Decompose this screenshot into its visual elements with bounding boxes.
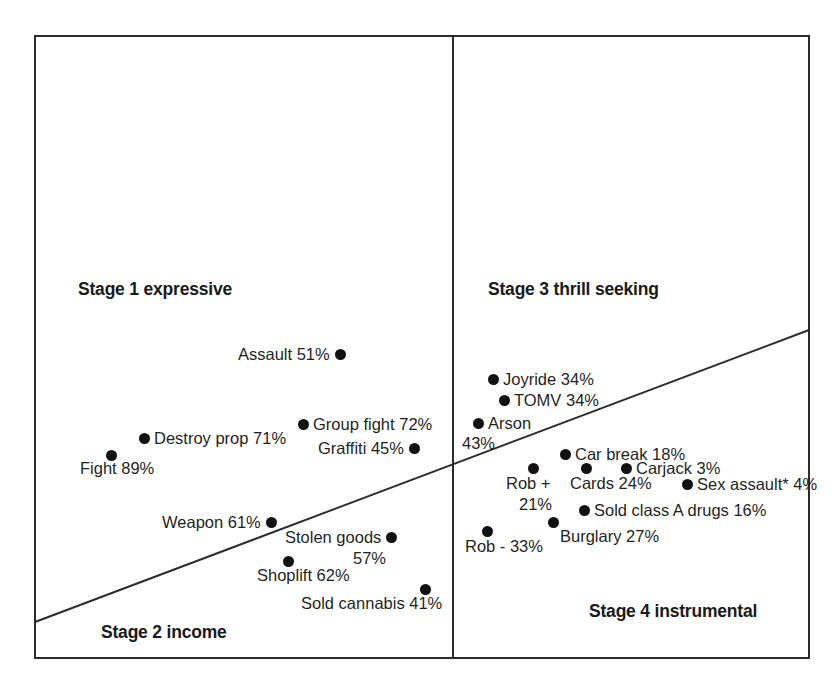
- scatter-dot-icon: [139, 433, 150, 444]
- point-assault[interactable]: Assault 51%: [238, 345, 346, 364]
- scatter-dot-icon: [386, 532, 397, 543]
- scatter-dot-icon: [409, 443, 420, 454]
- point-stolen-goods-value: 57%: [353, 549, 386, 568]
- point-joyride-label: Joyride 34%: [503, 370, 594, 389]
- marker-cards[interactable]: [581, 463, 592, 474]
- scatter-dot-icon: [579, 505, 590, 516]
- stage-4-label: Stage 4 instrumental: [589, 601, 757, 622]
- point-sold-class-a-drugs-label: Sold class A drugs 16%: [594, 501, 766, 520]
- point-arson[interactable]: Arson: [473, 414, 531, 433]
- scatter-dot-icon: [682, 479, 693, 490]
- stage-2-label: Stage 2 income: [101, 622, 227, 643]
- scatter-dot-icon: [298, 419, 309, 430]
- point-destroy-prop[interactable]: Destroy prop 71%: [139, 429, 286, 448]
- scatter-dot-icon: [488, 374, 499, 385]
- scatter-dot-icon: [335, 349, 346, 360]
- point-fight-label: Fight 89%: [80, 459, 154, 478]
- scatter-dot-icon: [499, 395, 510, 406]
- point-burglary-label: Burglary 27%: [560, 527, 659, 546]
- point-rob-minus-label: Rob - 33%: [465, 537, 543, 556]
- marker-rob-plus[interactable]: [528, 463, 539, 474]
- point-joyride[interactable]: Joyride 34%: [488, 370, 594, 389]
- scatter-dot-icon: [473, 418, 484, 429]
- point-group-fight[interactable]: Group fight 72%: [298, 415, 432, 434]
- point-rob-plus-value: 21%: [519, 495, 552, 514]
- point-tomv[interactable]: TOMV 34%: [499, 391, 599, 410]
- figure-frame: [34, 35, 810, 659]
- stage-3-label: Stage 3 thrill seeking: [488, 279, 659, 300]
- point-graffiti[interactable]: Graffiti 45%: [318, 439, 420, 458]
- point-sex-assault-label: Sex assault* 4%: [697, 475, 817, 494]
- point-destroy-prop-label: Destroy prop 71%: [154, 429, 286, 448]
- point-sold-class-a-drugs[interactable]: Sold class A drugs 16%: [579, 501, 766, 520]
- point-assault-label: Assault 51%: [238, 345, 330, 364]
- point-arson-label: Arson: [488, 414, 531, 433]
- point-sold-cannabis-label: Sold cannabis 41%: [301, 594, 442, 613]
- point-rob-plus-label: Rob +: [506, 474, 551, 493]
- point-tomv-label: TOMV 34%: [514, 391, 599, 410]
- vertical-divider: [452, 35, 454, 659]
- scatter-dot-icon: [560, 449, 571, 460]
- point-sex-assault[interactable]: Sex assault* 4%: [682, 475, 817, 494]
- point-weapon[interactable]: Weapon 61%: [162, 513, 277, 532]
- marker-burglary[interactable]: [548, 517, 559, 528]
- point-graffiti-label: Graffiti 45%: [318, 439, 404, 458]
- stage-1-label: Stage 1 expressive: [78, 279, 232, 300]
- scatter-figure: Stage 1 expressive Stage 2 income Stage …: [0, 0, 840, 690]
- marker-rob-minus[interactable]: [482, 526, 493, 537]
- point-group-fight-label: Group fight 72%: [313, 415, 432, 434]
- point-shoplift-label: Shoplift 62%: [257, 566, 350, 585]
- scatter-dot-icon: [621, 463, 632, 474]
- point-arson-value: 43%: [462, 434, 495, 453]
- point-weapon-label: Weapon 61%: [162, 513, 261, 532]
- point-stolen-goods-label: Stolen goods: [285, 528, 381, 547]
- scatter-dot-icon: [266, 517, 277, 528]
- point-stolen-goods[interactable]: Stolen goods: [285, 528, 397, 547]
